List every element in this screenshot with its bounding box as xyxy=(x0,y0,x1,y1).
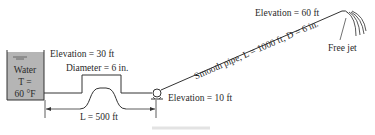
tank-label-temp: T = xyxy=(7,76,43,88)
length-label: L = 500 ft xyxy=(80,113,118,123)
pipe-section-1 xyxy=(44,75,152,93)
arrow-right-icon xyxy=(150,107,155,111)
pipe-hump xyxy=(80,88,126,109)
free-jet-stream xyxy=(347,12,356,36)
free-jet-label: Free jet xyxy=(328,44,357,54)
tank-label-fluid: Water xyxy=(7,64,43,76)
pump-icon xyxy=(153,89,161,97)
tank-elevation-label: Elevation = 30 ft xyxy=(50,50,114,60)
outlet-elevation-label: Elevation = 60 ft xyxy=(255,9,319,19)
pump-elevation-label: Elevation = 10 ft xyxy=(168,94,232,104)
leader-line xyxy=(340,18,346,40)
tank-label-temp-value: 60 °F xyxy=(7,88,43,100)
pipe-system-drawing xyxy=(0,0,375,135)
tank-label: Water T = 60 °F xyxy=(7,64,43,100)
arrow-left-icon xyxy=(46,107,51,111)
diameter-label: Diameter = 6 in. xyxy=(66,64,128,74)
